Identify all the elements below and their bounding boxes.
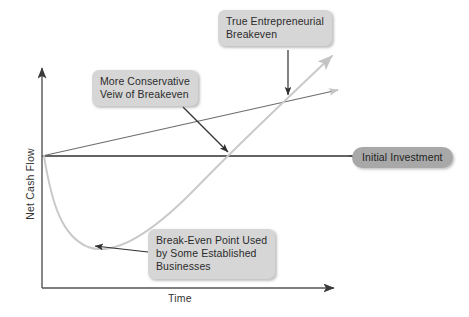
- connector-conservative-view: [183, 107, 228, 152]
- callout-break-even-point-established-businesses: Break-Even Point Used by Some Establishe…: [148, 229, 275, 279]
- breakeven-diagram: True Entrepreneurial Breakeven More Cons…: [0, 0, 469, 317]
- x-axis-title: Time: [168, 292, 192, 304]
- callout-more-conservative-view: More Conservative Veiw of Breakeven: [92, 70, 198, 106]
- callout-initial-investment: Initial Investment: [352, 147, 453, 168]
- callout-true-entrepreneurial-breakeven: True Entrepreneurial Breakeven: [218, 10, 332, 46]
- y-axis-title: Net Cash Flow: [24, 141, 36, 227]
